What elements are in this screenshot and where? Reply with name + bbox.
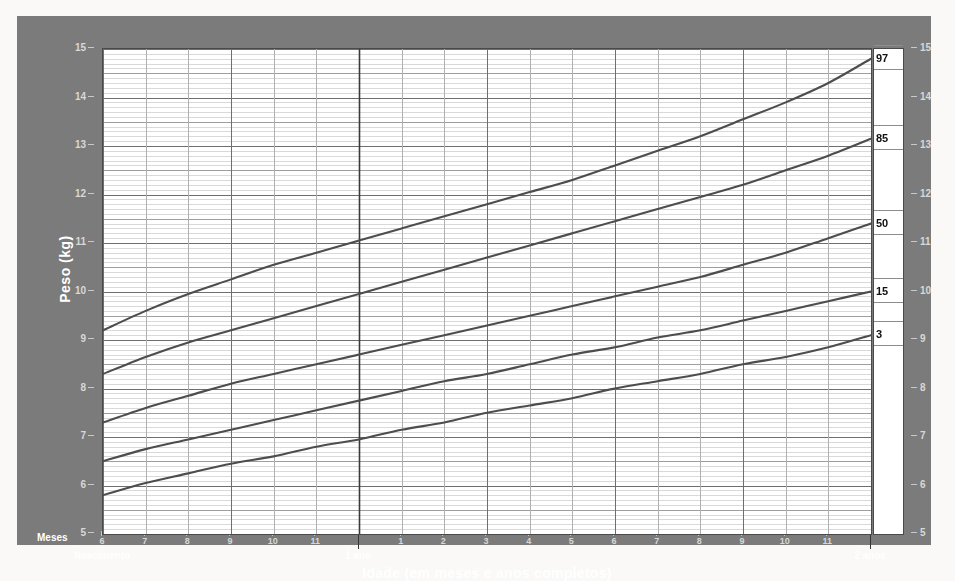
percentile-label-50: 50 xyxy=(876,218,888,229)
x-tick-7-1: 7 xyxy=(132,537,158,546)
x-major-tick-12 xyxy=(358,535,359,549)
percentile-separator-85 xyxy=(874,149,903,150)
y-tick-right-10: 10 xyxy=(920,286,944,296)
x-tick-9-3: 9 xyxy=(217,537,243,546)
x-tick-11-5: 11 xyxy=(302,537,328,546)
percentile-curve-15 xyxy=(103,292,871,462)
y-tick-left-8: 8 xyxy=(62,383,86,393)
x-tick-3-8: 3 xyxy=(473,537,499,546)
x-tick-6-0: 6 xyxy=(89,537,115,546)
y-tick-right-14: 14 xyxy=(920,92,944,102)
percentile-separator-top-3 xyxy=(874,321,903,322)
y-tick-left-12: 12 xyxy=(62,189,86,199)
y-tick-left-14: 14 xyxy=(62,92,86,102)
x-major-tick-24 xyxy=(870,535,871,549)
x-tick-8-2: 8 xyxy=(174,537,200,546)
y-tick-left-10: 10 xyxy=(62,286,86,296)
x-major-label-1-ano: 1 ano xyxy=(310,550,406,561)
y-tick-right-9: 9 xyxy=(920,334,944,344)
percentile-curve-85 xyxy=(103,139,871,374)
y-tick-right-6: 6 xyxy=(920,480,944,490)
percentile-separator-top-97 xyxy=(874,45,903,46)
y-tick-left-11: 11 xyxy=(62,237,86,247)
y-tick-left-6: 6 xyxy=(62,480,86,490)
y-tick-left-9: 9 xyxy=(62,334,86,344)
percentile-separator-top-50 xyxy=(874,210,903,211)
growth-chart-figure: Peso (kg) Idade (em meses e anos complet… xyxy=(0,0,955,581)
percentile-label-15: 15 xyxy=(876,286,888,297)
y-tick-left-5: 5 xyxy=(62,528,86,538)
percentile-separator-top-15 xyxy=(874,278,903,279)
y-tick-right-12: 12 xyxy=(920,189,944,199)
y-tick-right-5: 5 xyxy=(920,528,944,538)
x-tick-8-13: 8 xyxy=(686,537,712,546)
percentile-separator-top-85 xyxy=(874,125,903,126)
x-tick-1-6: 1 xyxy=(388,537,414,546)
y-tick-right-7: 7 xyxy=(920,431,944,441)
y-tick-right-15: 15 xyxy=(920,43,944,53)
x-tick-10-4: 10 xyxy=(260,537,286,546)
percentile-label-3: 3 xyxy=(876,329,882,340)
percentile-curve-97 xyxy=(103,59,871,331)
y-tick-right-13: 13 xyxy=(920,140,944,150)
percentile-legend-box: 978550153 xyxy=(873,48,904,535)
y-tick-left-7: 7 xyxy=(62,431,86,441)
x-tick-4-9: 4 xyxy=(516,537,542,546)
x-major-label-nascimento: Nascimento xyxy=(54,550,150,561)
y-tick-right-8: 8 xyxy=(920,383,944,393)
x-tick-11-16: 11 xyxy=(814,537,840,546)
y-tick-left-15: 15 xyxy=(62,43,86,53)
x-tick-9-14: 9 xyxy=(729,537,755,546)
x-major-label-2-anos: 2 anos xyxy=(822,550,918,561)
x-tick-6-11: 6 xyxy=(601,537,627,546)
percentile-separator-97 xyxy=(874,69,903,70)
x-tick-7-12: 7 xyxy=(644,537,670,546)
percentile-separator-15 xyxy=(874,302,903,303)
y-tick-left-13: 13 xyxy=(62,140,86,150)
percentile-curve-50 xyxy=(103,224,871,423)
percentile-label-85: 85 xyxy=(876,133,888,144)
y-axis-title: Peso (kg) xyxy=(57,209,73,329)
x-axis-title: Idade (em meses e anos completos) xyxy=(277,565,697,581)
percentile-separator-3 xyxy=(874,345,903,346)
chart-panel: Peso (kg) Idade (em meses e anos complet… xyxy=(17,16,931,545)
x-tick-2-7: 2 xyxy=(430,537,456,546)
percentile-separator-50 xyxy=(874,234,903,235)
x-tick-10-15: 10 xyxy=(772,537,798,546)
plot-area xyxy=(102,48,872,535)
percentile-curve-3 xyxy=(103,335,871,495)
y-tick-right-11: 11 xyxy=(920,237,944,247)
percentile-label-97: 97 xyxy=(876,53,888,64)
percentile-curves xyxy=(103,49,871,534)
x-tick-5-10: 5 xyxy=(558,537,584,546)
